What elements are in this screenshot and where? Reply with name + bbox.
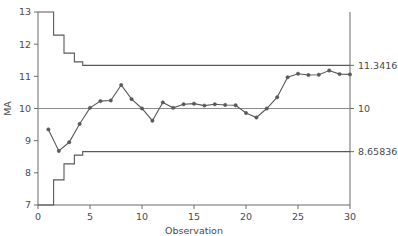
data-point-marker [234, 104, 237, 107]
y-tick-label: 12 [19, 39, 31, 50]
data-point-marker [140, 107, 143, 110]
control-limit-labels: 11.3416108.65836 [350, 60, 397, 157]
data-point-marker [109, 99, 112, 102]
data-point-marker [203, 104, 206, 107]
data-point-marker [78, 122, 81, 125]
data-point-marker [130, 97, 133, 100]
y-tick-label: 7 [25, 199, 31, 210]
data-point-marker [276, 96, 279, 99]
control-limit-lines [38, 12, 350, 205]
upper-control-limit-label: 11.3416 [358, 60, 397, 71]
y-tick-label: 13 [19, 6, 31, 17]
x-tick-label: 15 [188, 211, 200, 222]
center-line-label: 10 [358, 103, 370, 114]
data-point-marker [182, 103, 185, 106]
upper-control-limit-line [38, 12, 350, 65]
x-tick-label: 25 [292, 211, 304, 222]
data-point-marker [120, 83, 123, 86]
lower-control-limit-line [38, 152, 350, 205]
data-point-marker [348, 73, 351, 76]
ma-series-markers [47, 69, 352, 153]
ma-series-line [48, 71, 350, 151]
data-point-marker [213, 103, 216, 106]
data-point-marker [99, 99, 102, 102]
chart-canvas: 78910111213 051015202530 11.3416108.6583… [0, 0, 398, 236]
x-tick-label: 30 [344, 211, 356, 222]
y-tick-label: 9 [25, 135, 31, 146]
data-point-marker [296, 72, 299, 75]
data-point-marker [244, 111, 247, 114]
data-point-marker [68, 141, 71, 144]
data-point-marker [172, 106, 175, 109]
data-point-marker [307, 73, 310, 76]
x-axis-ticks: 051015202530 [35, 205, 356, 222]
x-axis-title: Observation [165, 225, 223, 236]
x-tick-label: 20 [240, 211, 252, 222]
moving-average-control-chart: 78910111213 051015202530 11.3416108.6583… [0, 0, 398, 236]
data-point-marker [161, 101, 164, 104]
x-tick-label: 0 [35, 211, 41, 222]
y-axis-ticks: 78910111213 [19, 6, 38, 210]
data-point-marker [338, 72, 341, 75]
data-point-marker [151, 119, 154, 122]
data-point-marker [328, 69, 331, 72]
y-axis-title: MA [2, 101, 13, 116]
data-point-marker [192, 102, 195, 105]
y-tick-label: 8 [25, 167, 31, 178]
data-point-marker [47, 128, 50, 131]
x-tick-label: 5 [87, 211, 93, 222]
data-point-marker [265, 107, 268, 110]
data-point-marker [255, 116, 258, 119]
data-point-marker [57, 149, 60, 152]
data-point-marker [317, 73, 320, 76]
data-point-marker [88, 106, 91, 109]
data-point-marker [224, 103, 227, 106]
x-tick-label: 10 [136, 211, 148, 222]
data-point-marker [286, 76, 289, 79]
y-tick-label: 10 [19, 103, 31, 114]
lower-control-limit-label: 8.65836 [358, 146, 397, 157]
y-tick-label: 11 [19, 71, 31, 82]
